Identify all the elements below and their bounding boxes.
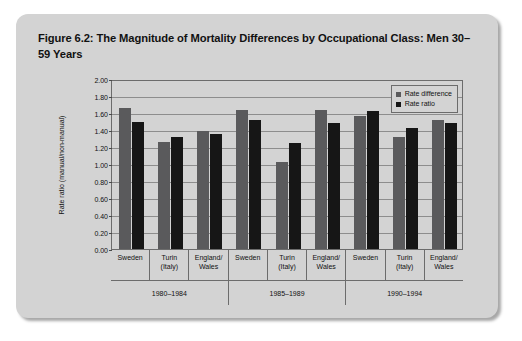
period-label-row: 1980–19841985–19891990–1994: [111, 281, 463, 305]
period-label-text: 1980–1984: [152, 290, 187, 297]
category-label-line: (Italy): [161, 262, 179, 271]
category-label-line: Sweden: [353, 253, 378, 262]
bar-rate-ratio: [171, 137, 183, 249]
category-label-line: Turin: [161, 253, 177, 262]
bar-rate-difference: [119, 108, 131, 249]
y-tick-label: 0.40: [76, 213, 108, 220]
category-label-line: Wales: [199, 262, 218, 271]
y-tick-label: 0.80: [76, 179, 108, 186]
y-axis-title: Rate ratio (manual/non-manual): [58, 90, 70, 240]
bar-rate-difference: [354, 116, 366, 249]
figure-title: Figure 6.2: The Magnitude of Mortality D…: [38, 30, 478, 62]
bar-rate-difference: [236, 110, 248, 249]
legend-label: Rate difference: [405, 89, 452, 99]
bar-rate-difference: [197, 131, 209, 249]
category-label-line: Wales: [434, 262, 453, 271]
category-label: Turin(Italy): [150, 250, 189, 280]
period-label: 1990–1994: [346, 281, 463, 305]
category-label: Turin(Italy): [268, 250, 307, 280]
y-tick-label: 1.40: [76, 128, 108, 135]
y-tick-label: 1.00: [76, 162, 108, 169]
bar-rate-ratio: [445, 123, 457, 249]
bar-rate-ratio: [249, 120, 261, 249]
category-label-row: SwedenTurin(Italy)England/WalesSwedenTur…: [111, 250, 463, 281]
category-label-line: Wales: [317, 262, 336, 271]
category-label-line: England/: [312, 253, 340, 262]
category-label-line: (Italy): [278, 262, 296, 271]
period-label: 1980–1984: [111, 281, 229, 305]
period-label-text: 1990–1994: [387, 290, 422, 297]
y-tick-label: 0.20: [76, 230, 108, 237]
bar-rate-difference: [315, 110, 327, 249]
bar-rate-difference: [393, 137, 405, 249]
category-label-line: (Italy): [396, 262, 414, 271]
chart-area: Rate ratio (manual/non-manual) 0.000.200…: [62, 80, 480, 305]
y-tick-label: 1.20: [76, 145, 108, 152]
period-label: 1985–1989: [229, 281, 347, 305]
category-label: England/Wales: [425, 250, 463, 280]
legend-swatch-icon: [396, 92, 401, 97]
bar-rate-ratio: [328, 123, 340, 249]
category-label: Turin(Italy): [386, 250, 425, 280]
category-label: Sweden: [229, 250, 268, 280]
category-label-line: Sweden: [235, 253, 260, 262]
bar-rate-ratio: [210, 134, 222, 249]
y-tick-label: 0.00: [76, 247, 108, 254]
category-axis: SwedenTurin(Italy)England/WalesSwedenTur…: [111, 250, 463, 305]
y-tick-label: 1.60: [76, 111, 108, 118]
category-label-line: Turin: [279, 253, 295, 262]
legend-swatch-icon: [396, 102, 401, 107]
bar-rate-ratio: [406, 128, 418, 249]
y-axis-tick-labels: 0.000.200.400.600.801.001.201.401.601.80…: [76, 80, 108, 250]
plot-area: Rate differenceRate ratio: [111, 80, 463, 250]
bar-rate-ratio: [132, 122, 144, 250]
y-tick-label: 0.60: [76, 196, 108, 203]
figure-panel: Figure 6.2: The Magnitude of Mortality D…: [16, 14, 498, 318]
y-tick-label: 1.80: [76, 94, 108, 101]
bar-rate-ratio: [367, 111, 379, 249]
period-label-text: 1985–1989: [269, 290, 304, 297]
legend-item: Rate ratio: [396, 99, 452, 109]
category-label: England/Wales: [189, 250, 228, 280]
legend-label: Rate ratio: [405, 99, 435, 109]
legend-item: Rate difference: [396, 89, 452, 99]
bar-rate-difference: [158, 142, 170, 249]
category-label-line: Sweden: [117, 253, 142, 262]
category-label-line: England/: [430, 253, 458, 262]
category-label: Sweden: [111, 250, 150, 280]
bar-rate-ratio: [289, 143, 301, 249]
bar-rate-difference: [432, 120, 444, 249]
category-label-line: Turin: [397, 253, 413, 262]
category-label-line: England/: [195, 253, 223, 262]
category-label: England/Wales: [307, 250, 346, 280]
y-tick-label: 2.00: [76, 77, 108, 84]
bar-rate-difference: [276, 162, 288, 249]
chart-legend: Rate differenceRate ratio: [391, 85, 458, 113]
category-label: Sweden: [346, 250, 385, 280]
